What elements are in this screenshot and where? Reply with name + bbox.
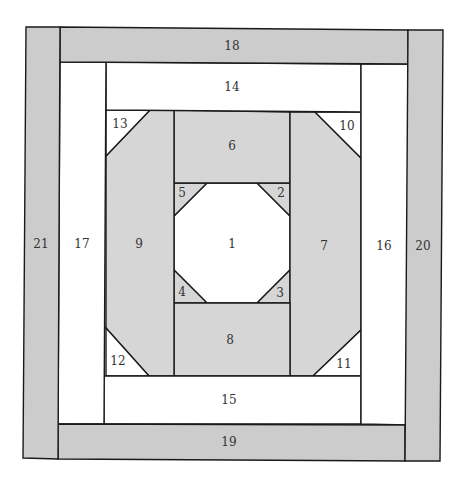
piece-label-3: 3: [276, 286, 284, 300]
piece-label-13: 13: [112, 117, 127, 131]
piece-label-16: 16: [376, 239, 391, 253]
piece-label-11: 11: [336, 357, 351, 371]
piece-label-12: 12: [110, 354, 125, 368]
piece-label-10: 10: [339, 119, 354, 133]
piece-label-1: 1: [228, 237, 236, 251]
piece-label-15: 15: [221, 393, 236, 407]
piece-label-17: 17: [74, 237, 89, 251]
quilt-block-svg: 123456789101112131415161718192021: [0, 0, 468, 484]
piece-label-20: 20: [415, 239, 430, 253]
piece-label-6: 6: [228, 139, 236, 153]
piece-label-21: 21: [33, 237, 48, 251]
piece-label-14: 14: [224, 80, 240, 94]
piece-label-8: 8: [226, 333, 234, 347]
piece-label-9: 9: [135, 237, 143, 251]
quilt-block-diagram: 123456789101112131415161718192021: [0, 0, 468, 484]
piece-label-7: 7: [320, 239, 328, 253]
piece-label-5: 5: [178, 186, 186, 200]
piece-label-4: 4: [178, 285, 186, 299]
piece-label-2: 2: [277, 186, 285, 200]
piece-label-18: 18: [224, 39, 239, 53]
piece-label-19: 19: [221, 435, 236, 449]
